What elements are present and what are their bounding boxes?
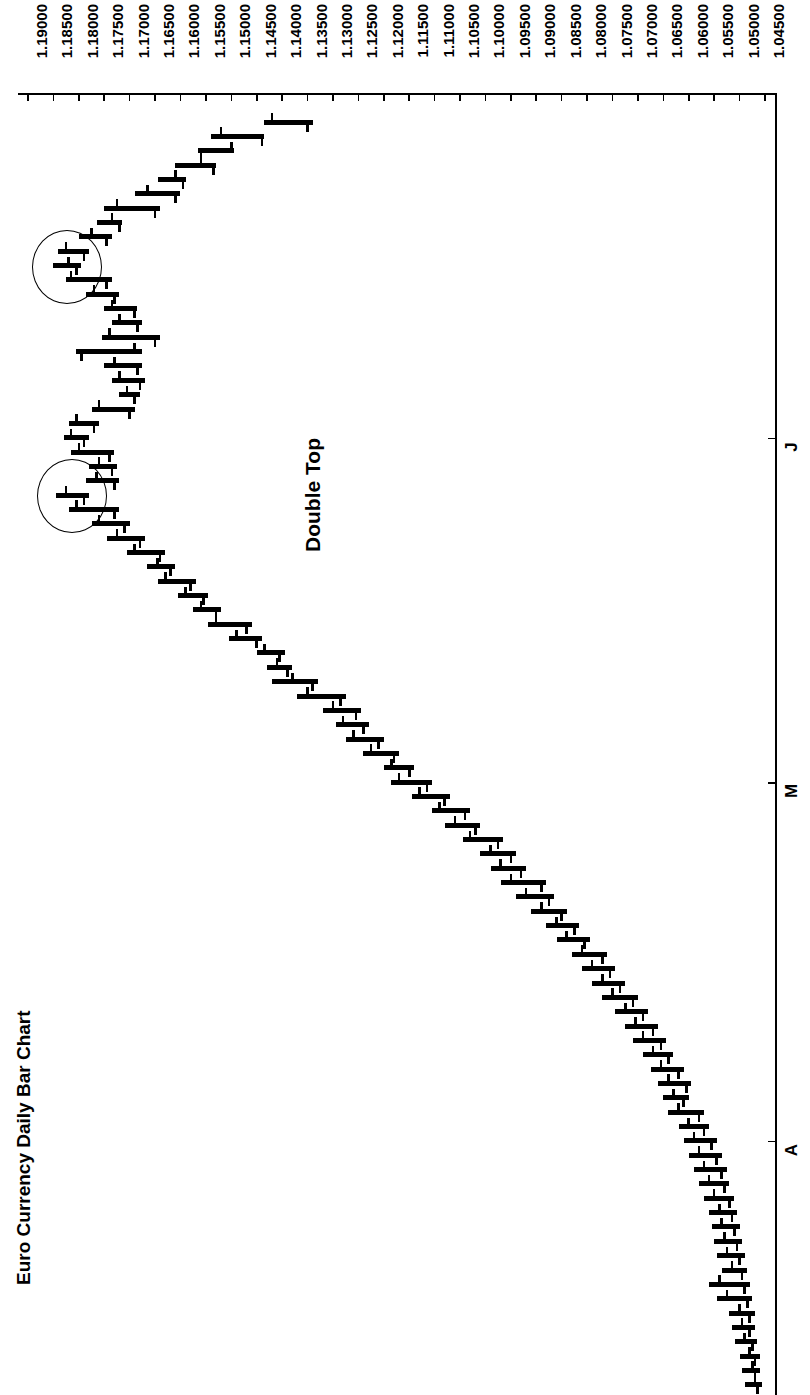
bar-close-tick bbox=[377, 742, 380, 749]
double-top-peak-2-circle-icon bbox=[37, 459, 107, 533]
bar-close-tick bbox=[133, 397, 136, 404]
bar-open-tick bbox=[306, 687, 309, 694]
bar-close-tick bbox=[408, 770, 411, 777]
bar-close-tick bbox=[393, 756, 396, 763]
price-tick-label: 1.15500 bbox=[212, 4, 227, 58]
bar-close-tick bbox=[474, 828, 477, 835]
bar-open-tick bbox=[667, 1074, 670, 1081]
bar-close-tick bbox=[154, 340, 157, 347]
bar-open-tick bbox=[601, 974, 604, 981]
bar-open-tick bbox=[116, 529, 119, 536]
bar-open-tick bbox=[156, 558, 159, 565]
price-tick-label: 1.14500 bbox=[263, 4, 278, 58]
plot-area: Double Top bbox=[0, 100, 778, 1395]
bar-open-tick bbox=[510, 874, 513, 881]
bar-close-tick bbox=[497, 842, 500, 849]
bar-open-tick bbox=[723, 1232, 726, 1239]
bar-close-tick bbox=[560, 914, 563, 921]
bar-open-tick bbox=[738, 1304, 741, 1311]
bar-high-low-range bbox=[740, 1354, 760, 1359]
bar-open-tick bbox=[555, 917, 558, 924]
bar-open-tick bbox=[118, 314, 121, 321]
price-tick-label: 1.05000 bbox=[746, 4, 761, 58]
bar-close-tick bbox=[245, 627, 248, 634]
bar-close-tick bbox=[339, 699, 342, 706]
bar-open-tick bbox=[438, 802, 441, 809]
price-tick-label: 1.15000 bbox=[237, 4, 252, 58]
bar-open-tick bbox=[200, 601, 203, 608]
bar-close-tick bbox=[123, 526, 126, 533]
bar-close-tick bbox=[255, 641, 258, 648]
bar-high-low-range bbox=[102, 335, 160, 340]
bar-close-tick bbox=[113, 297, 116, 304]
bar-close-tick bbox=[710, 1143, 713, 1150]
bar-high-low-range bbox=[104, 306, 137, 311]
bar-open-tick bbox=[271, 113, 274, 120]
bar-close-tick bbox=[548, 899, 551, 906]
bar-open-tick bbox=[164, 572, 167, 579]
bar-close-tick bbox=[632, 1000, 635, 1007]
bar-close-tick bbox=[642, 1014, 645, 1021]
bar-open-tick bbox=[454, 816, 457, 823]
bar-open-tick bbox=[751, 1361, 754, 1368]
price-axis: 1.190001.185001.180001.175001.170001.165… bbox=[0, 0, 810, 105]
bar-close-tick bbox=[261, 139, 264, 146]
bar-open-tick bbox=[743, 1333, 746, 1340]
bar-open-tick bbox=[748, 1347, 751, 1354]
bar-open-tick bbox=[624, 1003, 627, 1010]
bar-open-tick bbox=[741, 1318, 744, 1325]
price-tick-label: 1.11500 bbox=[415, 4, 430, 57]
bar-close-tick bbox=[105, 239, 108, 246]
bar-open-tick bbox=[565, 931, 568, 938]
bar-close-tick bbox=[738, 1258, 741, 1265]
bar-close-tick bbox=[601, 957, 604, 964]
bar-close-tick bbox=[573, 928, 576, 935]
bar-open-tick bbox=[489, 845, 492, 852]
bar-close-tick bbox=[154, 211, 157, 218]
bar-close-tick bbox=[136, 368, 139, 375]
price-tick-label: 1.07500 bbox=[619, 4, 634, 58]
time-axis-label: A bbox=[783, 1144, 800, 1156]
bar-close-tick bbox=[736, 1244, 739, 1251]
price-tick-label: 1.11000 bbox=[441, 4, 456, 57]
bar-open-tick bbox=[352, 730, 355, 737]
bar-open-tick bbox=[642, 1031, 645, 1038]
chart-canvas: Euro Currency Daily Bar Chart 1.190001.1… bbox=[0, 0, 810, 1395]
bar-close-tick bbox=[464, 813, 467, 820]
bar-close-tick bbox=[362, 727, 365, 734]
bar-open-tick bbox=[235, 630, 238, 637]
bar-close-tick bbox=[83, 440, 86, 447]
bar-open-tick bbox=[525, 888, 528, 895]
bar-close-tick bbox=[746, 1301, 749, 1308]
bar-close-tick bbox=[212, 168, 215, 175]
bar-open-tick bbox=[726, 1247, 729, 1254]
bar-close-tick bbox=[703, 1129, 706, 1136]
bar-close-tick bbox=[748, 1316, 751, 1323]
bar-open-tick bbox=[398, 773, 401, 780]
bar-close-tick bbox=[728, 1201, 731, 1208]
price-tick-label: 1.18500 bbox=[59, 4, 74, 58]
bar-open-tick bbox=[230, 142, 233, 149]
price-tick-label: 1.09000 bbox=[542, 4, 557, 58]
bar-close-tick bbox=[128, 412, 131, 419]
bar-open-tick bbox=[78, 443, 81, 450]
time-axis-label: J bbox=[783, 442, 800, 451]
double-top-annotation-label: Double Top bbox=[302, 438, 323, 552]
bar-open-tick bbox=[133, 343, 136, 350]
bar-close-tick bbox=[108, 455, 111, 462]
price-tick-label: 1.17500 bbox=[110, 4, 125, 58]
price-tick-label: 1.06000 bbox=[695, 4, 710, 58]
bar-close-tick bbox=[698, 1115, 701, 1122]
bar-close-tick bbox=[174, 196, 177, 203]
bar-high-low-range bbox=[104, 206, 160, 211]
price-tick-label: 1.14000 bbox=[288, 4, 303, 58]
bar-close-tick bbox=[443, 799, 446, 806]
bar-high-low-range bbox=[175, 163, 216, 168]
bar-close-tick bbox=[754, 1359, 757, 1366]
bar-close-tick bbox=[720, 1172, 723, 1179]
bar-close-tick bbox=[139, 541, 142, 548]
bar-open-tick bbox=[276, 658, 279, 665]
bar-open-tick bbox=[581, 945, 584, 952]
price-tick-label: 1.12000 bbox=[390, 4, 405, 58]
bar-open-tick bbox=[90, 228, 93, 235]
